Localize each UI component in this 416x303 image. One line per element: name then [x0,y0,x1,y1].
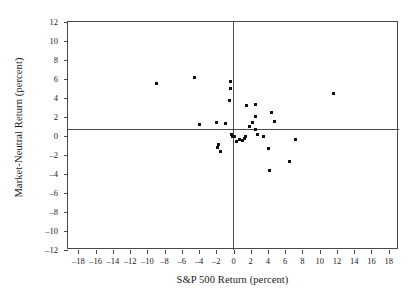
x-tick-mark [268,250,269,254]
y-tick-mark [64,155,68,156]
data-point [294,138,297,141]
x-tick-mark [96,250,97,254]
x-axis-title: S&P 500 Return (percent) [67,274,398,285]
x-tick-mark [320,250,321,254]
y-tick-mark [64,98,68,99]
data-point [332,92,335,95]
data-point [273,120,276,123]
data-point [256,133,259,136]
data-point [262,135,265,138]
y-tick-mark [64,41,68,42]
y-tick-label: –4 [36,169,58,179]
x-tick-mark [337,250,338,254]
y-tick-label: 6 [36,74,58,84]
data-point [288,160,291,163]
y-tick-label: –12 [36,245,58,255]
y-tick-mark [64,250,68,251]
y-tick-mark [64,174,68,175]
y-tick-label: –8 [36,207,58,217]
x-tick-mark [389,250,390,254]
x-tick-mark [216,250,217,254]
y-tick-label: –2 [36,150,58,160]
y-tick-mark [64,212,68,213]
scatter-chart-figure: Market-Neutral Return (percent) S&P 500 … [0,0,416,303]
x-tick-mark [182,250,183,254]
x-tick-mark [130,250,131,254]
x-tick-label: 18 [376,256,402,266]
x-tick-mark [354,250,355,254]
data-point [233,135,236,138]
y-axis-title: Market-Neutral Return (percent) [13,23,24,233]
data-point [254,128,257,131]
y-tick-mark [64,193,68,194]
data-point [244,135,247,138]
x-tick-mark [78,250,79,254]
x-tick-mark [147,250,148,254]
data-point [215,121,218,124]
x-tick-mark [371,250,372,254]
y-tick-mark [64,60,68,61]
y-tick-label: 12 [36,17,58,27]
data-point [216,146,219,149]
data-point [251,121,254,124]
data-point [198,123,201,126]
data-point [219,150,222,153]
y-tick-mark [64,79,68,80]
y-tick-label: –6 [36,188,58,198]
data-point [267,147,270,150]
data-point [254,115,257,118]
data-point [245,104,248,107]
data-point [270,111,273,114]
y-tick-label: 2 [36,112,58,122]
data-point [254,103,257,106]
data-point [193,76,196,79]
x-tick-mark [234,250,235,254]
data-point [248,125,251,128]
x-tick-mark [302,250,303,254]
x-tick-mark [199,250,200,254]
y-tick-label: 8 [36,55,58,65]
x-tick-mark [113,250,114,254]
y-tick-mark [64,22,68,23]
x-tick-mark [285,250,286,254]
data-point [229,80,232,83]
y-tick-label: 4 [36,93,58,103]
data-point [229,87,232,90]
y-tick-mark [64,231,68,232]
data-point [155,82,158,85]
data-point [228,99,231,102]
plot-area: –18–16–14–12–10–8–6–4–2024681012141618–1… [67,21,398,249]
x-tick-mark [165,250,166,254]
data-point [224,122,227,125]
x-tick-mark [251,250,252,254]
y-tick-label: 0 [36,131,58,141]
y-tick-label: –10 [36,226,58,236]
y-tick-label: 10 [36,36,58,46]
y-tick-mark [64,117,68,118]
y-tick-mark [64,136,68,137]
data-point [268,169,271,172]
